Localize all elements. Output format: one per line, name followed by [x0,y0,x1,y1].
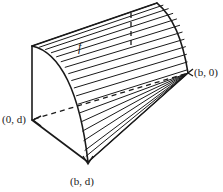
label-surface-function-f: f [78,41,81,53]
label-point-b-0: (b, 0) [194,67,218,78]
leader-b0 [188,69,193,76]
label-point-0-d: (0, d) [2,114,26,125]
figure-drawing [0,0,223,192]
label-point-b-d: (b, d) [70,176,94,187]
math-figure-solid: (0, d) (b, d) (b, 0) f [0,0,223,192]
